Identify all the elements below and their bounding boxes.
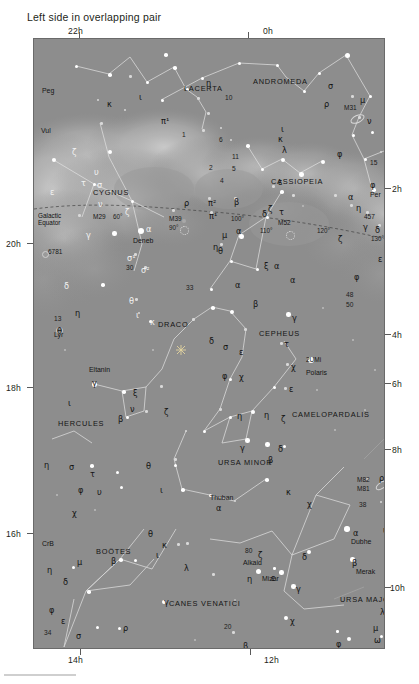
star	[174, 458, 177, 461]
hour-label-left-20h: 20h	[6, 239, 21, 249]
star	[197, 97, 200, 100]
star	[234, 599, 236, 601]
star	[202, 129, 205, 132]
nebula-glyph-6781	[42, 251, 49, 258]
hour-label-right-4h: 4h	[392, 330, 402, 340]
hour-label-right-10h: 10h	[390, 583, 405, 593]
star	[145, 410, 148, 413]
star	[351, 95, 354, 98]
star	[212, 573, 215, 576]
hour-label-bottom-14h: 14h	[68, 655, 83, 665]
star	[108, 73, 112, 77]
star	[208, 197, 211, 200]
star	[350, 204, 353, 207]
star	[129, 75, 132, 78]
star	[334, 429, 336, 431]
star	[135, 298, 138, 301]
star	[321, 160, 325, 164]
tick-right-2h	[384, 188, 391, 189]
star	[334, 194, 337, 197]
star	[64, 349, 66, 351]
star	[161, 99, 164, 102]
star	[280, 190, 284, 194]
star	[265, 442, 270, 447]
star	[279, 570, 284, 575]
star	[284, 387, 287, 390]
star	[181, 488, 185, 492]
star	[380, 635, 383, 638]
star	[172, 209, 175, 212]
star	[186, 88, 189, 91]
star	[194, 639, 196, 641]
star	[201, 77, 204, 80]
star	[149, 320, 152, 323]
star	[87, 590, 91, 594]
star	[229, 378, 232, 381]
star	[234, 197, 237, 200]
sky-canvas: ANDROMEDA LACERTA CASSIOPEIA CYGNUS DRAC…	[34, 39, 384, 648]
star	[372, 188, 376, 192]
star	[369, 95, 372, 98]
star	[92, 382, 97, 387]
star	[232, 631, 235, 634]
star	[266, 216, 269, 219]
star	[292, 194, 295, 197]
star	[177, 543, 180, 546]
star	[251, 410, 255, 414]
star	[284, 616, 288, 620]
star	[219, 408, 222, 411]
star	[94, 509, 96, 511]
hour-label-top-22h: 22h	[68, 26, 83, 36]
star	[245, 438, 250, 443]
star	[52, 158, 56, 162]
star	[192, 318, 195, 321]
star	[286, 312, 291, 317]
star	[101, 283, 105, 287]
star	[124, 109, 126, 111]
star	[138, 312, 140, 314]
star	[230, 260, 233, 263]
star	[211, 306, 215, 310]
star-chart-page: Left side in overlapping pair 22h 0h 14h…	[0, 0, 419, 684]
star	[75, 65, 78, 68]
star	[276, 64, 279, 67]
star	[160, 385, 163, 388]
star	[256, 268, 259, 271]
cluster-glyph-13lyr	[56, 327, 63, 334]
star	[173, 66, 177, 70]
star	[72, 566, 75, 569]
star	[100, 122, 103, 125]
tick-right-10h	[384, 587, 391, 588]
sky-chart[interactable]: ANDROMEDA LACERTA CASSIOPEIA CYGNUS DRAC…	[33, 38, 385, 649]
hour-label-left-18h: 18h	[6, 383, 21, 393]
star	[152, 349, 154, 351]
star	[364, 158, 367, 161]
star	[126, 416, 129, 419]
star	[93, 183, 96, 186]
star	[108, 150, 112, 154]
star	[210, 211, 213, 214]
star	[380, 501, 382, 503]
star	[116, 471, 119, 474]
cluster-glyph-m39	[180, 226, 189, 235]
star	[246, 144, 250, 148]
star	[256, 569, 261, 574]
star	[307, 550, 311, 554]
star	[347, 637, 351, 641]
star	[96, 626, 99, 629]
star	[78, 214, 81, 217]
footer-rule	[4, 674, 76, 676]
star	[286, 363, 289, 366]
star	[234, 500, 236, 502]
star	[182, 219, 186, 223]
cluster-glyph-m52	[286, 231, 295, 240]
star	[316, 389, 318, 391]
star	[238, 62, 241, 65]
sky-graphics	[34, 39, 384, 648]
star	[119, 558, 123, 562]
star	[56, 494, 58, 496]
star	[352, 339, 354, 341]
hour-label-right-6h: 6h	[392, 379, 402, 389]
star	[273, 567, 276, 570]
star	[380, 151, 382, 153]
